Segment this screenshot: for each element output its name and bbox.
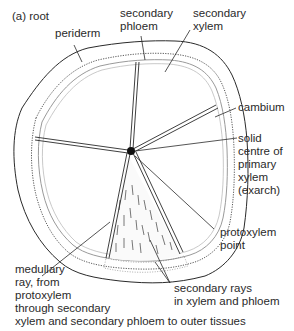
solid-centre-of-primary-xylem	[127, 147, 135, 155]
label-secondary-xylem: secondary xylem	[193, 7, 246, 33]
label-solid-centre: solid centre of primary xylem (exarch)	[238, 132, 283, 197]
periderm-leader	[74, 45, 82, 62]
label-medullary-ray: medullary ray, from protoxylem through s…	[15, 263, 246, 328]
label-periderm: periderm	[55, 27, 100, 40]
label-protoxylem-point: protoxylem point	[220, 226, 276, 252]
label-secondary-phloem: secondary phloem	[120, 7, 173, 33]
label-cambium: cambium	[238, 101, 285, 114]
secondary-xylem-leader	[165, 30, 190, 72]
secondary-phloem-leader	[141, 36, 145, 60]
figure-title: (a) root	[12, 10, 49, 23]
